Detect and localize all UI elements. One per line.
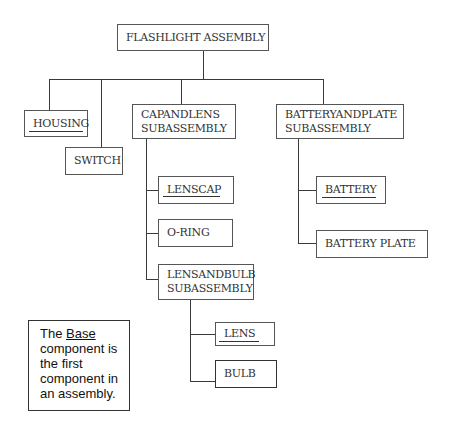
base-underline-lens: [219, 341, 259, 342]
node-label-line1: LENSANDBULB: [167, 268, 253, 282]
connector-battery: [298, 190, 316, 191]
note-line-1: The Base: [40, 326, 123, 341]
base-underline-battery: [322, 197, 376, 198]
node-label: LENS: [224, 327, 255, 341]
base-underline-lenscap: [163, 196, 220, 197]
node-label-line2: SUBASSEMBLY: [141, 122, 235, 136]
node-label: O-RING: [167, 226, 209, 240]
node-label: LENSCAP: [167, 183, 221, 197]
node-label: SWITCH: [74, 154, 121, 168]
note-line-2: component is: [40, 341, 123, 356]
connector-cap-and-lens: [181, 79, 182, 104]
node-cap-and-lens-subassembly: CAPANDLENS SUBASSEMBLY: [132, 104, 236, 139]
connector-lens-and-bulb: [146, 279, 158, 280]
node-battery: BATTERY: [316, 176, 386, 204]
base-underline-housing: [29, 131, 83, 132]
node-bulb: BULB: [215, 360, 277, 388]
connector-root-down: [203, 50, 204, 79]
connector-lens: [190, 334, 215, 335]
node-o-ring: O-RING: [158, 219, 233, 247]
node-battery-and-plate-subassembly: BATTERYANDPLATE SUBASSEMBLY: [276, 104, 404, 139]
base-component-note: The Base component is the first componen…: [28, 320, 130, 411]
node-label-line1: BATTERYANDPLATE: [285, 108, 403, 122]
connector-lens-and-bulb-trunk: [190, 300, 191, 381]
node-label-line2: SUBASSEMBLY: [285, 122, 403, 136]
node-label: BULB: [224, 367, 256, 381]
connector-battery-and-plate: [323, 79, 324, 104]
node-housing: HOUSING: [24, 110, 88, 137]
node-label-line2: SUBASSEMBLY: [167, 282, 253, 296]
note-emphasis-base: Base: [66, 326, 96, 341]
note-line-5: an assembly.: [40, 386, 123, 401]
node-label: BATTERY: [325, 183, 376, 197]
connector-bulb: [190, 381, 215, 382]
node-flashlight-assembly: FLASHLIGHT ASSEMBLY: [117, 24, 269, 51]
note-line-3: the first: [40, 356, 123, 371]
connector-battery-plate: [298, 243, 316, 244]
connector-switch: [101, 79, 102, 147]
node-switch: SWITCH: [65, 147, 123, 175]
note-line-4: component in: [40, 371, 123, 386]
note-prefix: The: [40, 326, 66, 341]
node-label: BATTERY PLATE: [325, 237, 416, 251]
assembly-tree-diagram: FLASHLIGHT ASSEMBLY HOUSING SWITCH CAPAN…: [0, 0, 449, 433]
connector-o-ring: [146, 233, 158, 234]
node-label-line1: CAPANDLENS: [141, 108, 235, 122]
node-label: FLASHLIGHT ASSEMBLY: [126, 31, 265, 45]
node-label: HOUSING: [33, 117, 89, 131]
node-lens-and-bulb-subassembly: LENSANDBULB SUBASSEMBLY: [158, 264, 254, 300]
connector-housing: [49, 79, 50, 110]
node-lenscap: LENSCAP: [158, 176, 234, 204]
connector-lenscap: [146, 190, 158, 191]
node-lens: LENS: [215, 322, 275, 346]
connector-level1-bar: [49, 79, 324, 80]
node-battery-plate: BATTERY PLATE: [316, 230, 428, 258]
connector-cap-and-lens-trunk: [146, 138, 147, 279]
